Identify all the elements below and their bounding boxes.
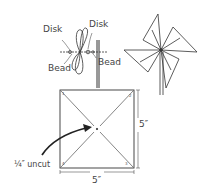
pinwheel-illustration: [124, 14, 197, 95]
corner-number-2: 2: [129, 94, 132, 98]
bottom-dimension-label: 5″: [92, 176, 101, 185]
bead-left-label: Bead: [48, 64, 71, 73]
disk-right-label: Disk: [89, 20, 108, 29]
corner-number-4: 4: [62, 162, 65, 166]
corner-number-1: 1: [62, 92, 65, 96]
corner-number-3: 3: [125, 162, 128, 166]
uncut-arrow: [42, 124, 92, 155]
disk-left-label: Disk: [43, 25, 62, 34]
bead-right-label: Bead: [98, 58, 121, 67]
uncut-note-label: ¼″ uncut: [14, 161, 50, 169]
side-dimension-label: 5″: [139, 120, 148, 129]
